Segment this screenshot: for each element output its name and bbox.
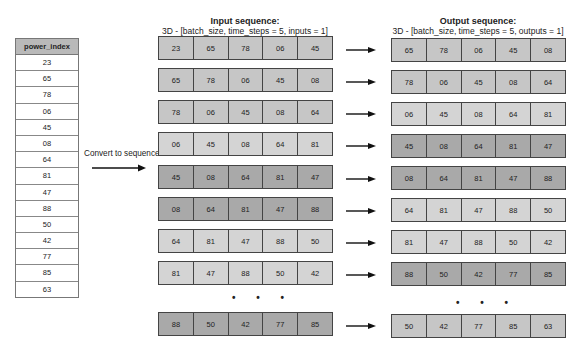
output-cell: 81 [462, 167, 497, 189]
output-cell: 50 [427, 263, 462, 285]
input-cell: 77 [263, 313, 298, 335]
table-cell: 63 [16, 282, 78, 297]
output-cell: 42 [531, 231, 565, 253]
output-subtitle: 3D - [batch_size, time_steps = 5, output… [392, 26, 563, 36]
output-ellipsis: • • • [456, 297, 517, 308]
output-cell: 64 [531, 71, 565, 93]
input-cell: 47 [298, 166, 332, 188]
table-cell: 65 [16, 71, 78, 87]
input-cell: 42 [229, 313, 264, 335]
input-cell: 88 [229, 262, 264, 284]
output-cell: 64 [427, 167, 462, 189]
output-cell: 45 [462, 71, 497, 93]
input-cell: 81 [263, 166, 298, 188]
input-cell: 81 [298, 133, 332, 155]
output-cell: 78 [392, 71, 427, 93]
input-cell: 85 [298, 313, 332, 335]
table-cell: 23 [16, 55, 78, 71]
input-cell: 08 [194, 166, 229, 188]
arrow-right-icon [346, 271, 376, 279]
input-row: 7806450864 [158, 100, 333, 124]
input-cell: 64 [229, 166, 264, 188]
input-cell: 45 [194, 133, 229, 155]
input-cell: 06 [263, 37, 298, 59]
input-cell: 78 [159, 101, 194, 123]
power-index-table: power_index 2365780645086481478850427785… [15, 38, 79, 298]
output-cell: 08 [462, 103, 497, 125]
output-cell: 64 [392, 199, 427, 221]
input-cell: 65 [159, 69, 194, 91]
input-cell: 47 [229, 230, 264, 252]
input-cell: 78 [229, 37, 264, 59]
output-cell: 77 [462, 315, 497, 337]
output-cell: 45 [496, 39, 531, 61]
output-cell: 47 [496, 167, 531, 189]
output-cell: 88 [496, 199, 531, 221]
input-cell: 50 [194, 313, 229, 335]
arrow-right-icon [346, 175, 376, 183]
output-row: 0645086481 [391, 102, 566, 126]
output-cell: 06 [392, 103, 427, 125]
input-row: 2365780645 [158, 36, 333, 60]
input-cell: 88 [159, 313, 194, 335]
output-cell: 50 [531, 199, 565, 221]
arrow-right-icon [346, 207, 376, 215]
output-cell: 08 [531, 39, 565, 61]
table-cell: 77 [16, 249, 78, 265]
output-row: 7806450864 [391, 70, 566, 94]
input-cell: 47 [263, 198, 298, 220]
input-cell: 88 [263, 230, 298, 252]
input-cell: 81 [194, 230, 229, 252]
output-cell: 47 [427, 231, 462, 253]
table-cell: 78 [16, 87, 78, 103]
table-cell: 81 [16, 168, 78, 184]
input-cell: 23 [159, 37, 194, 59]
input-title: Input sequence: 3D - [batch_size, time_s… [152, 16, 338, 36]
arrow-right-icon [346, 78, 376, 86]
output-row: 0864814788 [391, 166, 566, 190]
output-cell: 85 [531, 263, 565, 285]
output-cell: 47 [462, 199, 497, 221]
input-cell: 06 [159, 133, 194, 155]
output-cell: 81 [392, 231, 427, 253]
input-cell: 64 [298, 101, 332, 123]
table-cell: 88 [16, 201, 78, 217]
output-row: 5042778563 [391, 314, 566, 338]
output-cell: 64 [462, 135, 497, 157]
input-cell: 64 [263, 133, 298, 155]
output-cell: 06 [462, 39, 497, 61]
input-cell: 08 [263, 101, 298, 123]
input-cell: 45 [159, 166, 194, 188]
input-cell: 78 [194, 69, 229, 91]
output-cell: 42 [462, 263, 497, 285]
table-cell: 45 [16, 120, 78, 136]
input-cell: 81 [229, 198, 264, 220]
input-cell: 88 [298, 198, 332, 220]
input-cell: 45 [229, 101, 264, 123]
output-title: Output sequence: 3D - [batch_size, time_… [384, 16, 572, 36]
arrow-right-icon [346, 322, 376, 330]
output-cell: 08 [392, 167, 427, 189]
table-cell: 47 [16, 185, 78, 201]
output-cell: 47 [531, 135, 565, 157]
input-cell: 50 [298, 230, 332, 252]
table-cell: 06 [16, 104, 78, 120]
input-subtitle: 3D - [batch_size, time_steps = 5, inputs… [162, 26, 328, 36]
output-row: 6481478850 [391, 198, 566, 222]
arrow-right-icon [346, 142, 376, 150]
output-row: 8850427785 [391, 262, 566, 286]
convert-arrow-icon [92, 164, 146, 172]
table-cell: 85 [16, 265, 78, 281]
output-cell: 88 [392, 263, 427, 285]
arrow-right-icon [346, 46, 376, 54]
table-header: power_index [16, 39, 78, 55]
output-cell: 64 [496, 103, 531, 125]
output-cell: 08 [427, 135, 462, 157]
output-row: 8147885042 [391, 230, 566, 254]
output-cell: 45 [392, 135, 427, 157]
input-ellipsis: • • • [232, 292, 293, 303]
output-cell: 88 [462, 231, 497, 253]
convert-label: Convert to sequence [84, 149, 160, 158]
table-cell: 64 [16, 152, 78, 168]
arrow-right-icon [346, 239, 376, 247]
